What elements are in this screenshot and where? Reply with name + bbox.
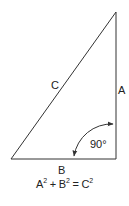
formula-exponent: 2 [89,177,93,184]
formula-equals: = [70,178,82,190]
triangle-outline [11,12,116,159]
right-triangle-diagram: C A B 90° [0,0,129,206]
side-a-label: A [118,84,126,96]
hypotenuse-label: C [51,79,59,91]
side-b-label: B [58,164,65,176]
formula-b: B [59,178,66,190]
angle-label: 90° [90,138,107,150]
formula-plus: + [47,178,59,190]
pythagorean-formula: A2 + B2 = C2 [0,178,129,190]
